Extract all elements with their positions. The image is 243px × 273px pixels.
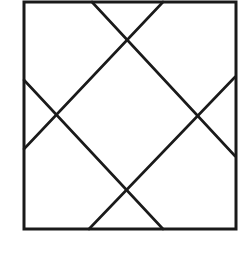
diagonal-line [24,80,163,229]
diagonal-line [89,77,235,229]
diagonal-line [24,2,163,149]
diagonal-lines [24,2,235,229]
diagonal-line [92,2,235,156]
geometric-diagram [0,0,243,273]
